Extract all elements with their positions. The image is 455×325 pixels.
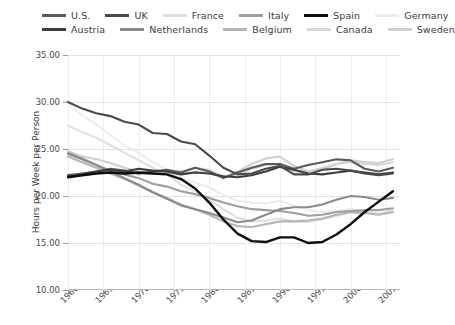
legend-swatch-icon [163, 14, 187, 17]
x-tick-mark [280, 290, 281, 295]
legend-swatch-icon [239, 14, 263, 17]
x-tick-mark [103, 290, 104, 295]
legend-label: France [192, 10, 224, 21]
legend-label: UK [134, 10, 147, 21]
legend-swatch-icon [42, 14, 66, 17]
legend-row-2: AustriaNetherlandsBelgiumCanadaSweden [0, 22, 414, 36]
legend-swatch-icon [375, 14, 399, 17]
legend-item-canada[interactable]: Canada [307, 24, 373, 35]
y-tick-label: 30.00 [24, 97, 60, 107]
legend-label: Italy [268, 10, 289, 21]
legend-swatch-icon [120, 28, 144, 31]
series-line-spain [68, 173, 393, 244]
x-tick-mark [209, 290, 210, 295]
series-line-belgium [68, 157, 393, 228]
legend-label: Spain [333, 10, 360, 21]
series-lines [68, 55, 400, 290]
legend-swatch-icon [304, 14, 328, 17]
y-tick-label: 25.00 [24, 144, 60, 154]
legend-item-sweden[interactable]: Sweden [388, 24, 455, 35]
y-tick-label: 10.00 [24, 285, 60, 295]
legend-label: Belgium [252, 24, 292, 35]
legend-item-italy[interactable]: Italy [239, 10, 289, 21]
legend-swatch-icon [388, 28, 412, 31]
legend-swatch-icon [105, 14, 129, 17]
x-tick-mark [245, 290, 246, 295]
legend-item-uk[interactable]: UK [105, 10, 147, 21]
x-tick-mark [386, 290, 387, 295]
legend-swatch-icon [42, 28, 66, 31]
x-tick-mark [174, 290, 175, 295]
legend-item-belgium[interactable]: Belgium [223, 24, 292, 35]
legend-label: Sweden [417, 24, 455, 35]
legend-label: Germany [404, 10, 448, 21]
y-tick-label: 20.00 [24, 191, 60, 201]
x-tick-mark [139, 290, 140, 295]
legend-label: Austria [71, 24, 105, 35]
y-tick-label: 15.00 [24, 238, 60, 248]
legend-item-u-s[interactable]: U.S. [42, 10, 90, 21]
y-tick-label: 35.00 [24, 50, 60, 60]
legend-item-austria[interactable]: Austria [42, 24, 105, 35]
x-tick-mark [351, 290, 352, 295]
legend-label: Netherlands [149, 24, 208, 35]
y-axis-title: Hours per Week per Person [31, 92, 41, 252]
plot-area [68, 55, 400, 290]
x-tick-mark [315, 290, 316, 295]
legend-item-france[interactable]: France [163, 10, 224, 21]
legend-label: U.S. [71, 10, 90, 21]
legend-swatch-icon [307, 28, 331, 31]
legend-row-1: U.S.UKFranceItalySpainGermany [0, 8, 414, 22]
legend-label: Canada [336, 24, 373, 35]
legend-swatch-icon [223, 28, 247, 31]
chart-legend: U.S.UKFranceItalySpainGermany AustriaNet… [0, 8, 414, 36]
legend-item-germany[interactable]: Germany [375, 10, 448, 21]
x-tick-mark [68, 290, 69, 295]
legend-item-netherlands[interactable]: Netherlands [120, 24, 208, 35]
legend-item-spain[interactable]: Spain [304, 10, 360, 21]
